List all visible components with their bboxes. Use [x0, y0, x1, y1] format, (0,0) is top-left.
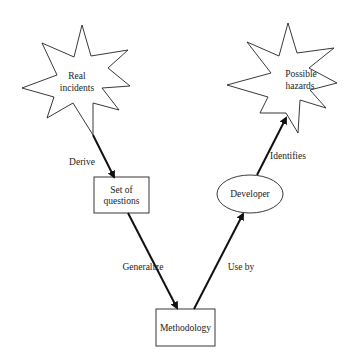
node-label-line: Developer [230, 189, 270, 199]
edge-label-use-by: Use by [228, 262, 255, 272]
edge-identifies-arrow [257, 118, 286, 175]
star-shape [227, 23, 337, 133]
node-label-line: Set of [110, 185, 133, 195]
node-methodology: Methodology [156, 309, 215, 346]
node-label-line: Real [68, 71, 86, 81]
edge-derive-arrow [93, 135, 114, 177]
node-label-line: Methodology [160, 323, 211, 333]
node-label-line: questions [104, 196, 140, 206]
edge-label-identifies: Identifies [270, 151, 306, 161]
diagram-canvas: Real incidents Possible hazards Set of q… [0, 0, 357, 362]
node-developer: Developer [217, 175, 283, 213]
edge-generalize-arrow [128, 213, 177, 308]
node-label-line: hazards [285, 81, 314, 91]
node-label-line: Possible [285, 69, 317, 79]
node-set-of-questions: Set of questions [94, 177, 149, 213]
node-possible-hazards: Possible hazards [227, 23, 337, 133]
edge-label-derive: Derive [69, 157, 95, 167]
rectangle-shape [94, 177, 149, 213]
node-label-line: incidents [60, 83, 95, 93]
edge-label-generalize: Generalize [122, 262, 163, 272]
node-real-incidents: Real incidents [22, 25, 130, 135]
